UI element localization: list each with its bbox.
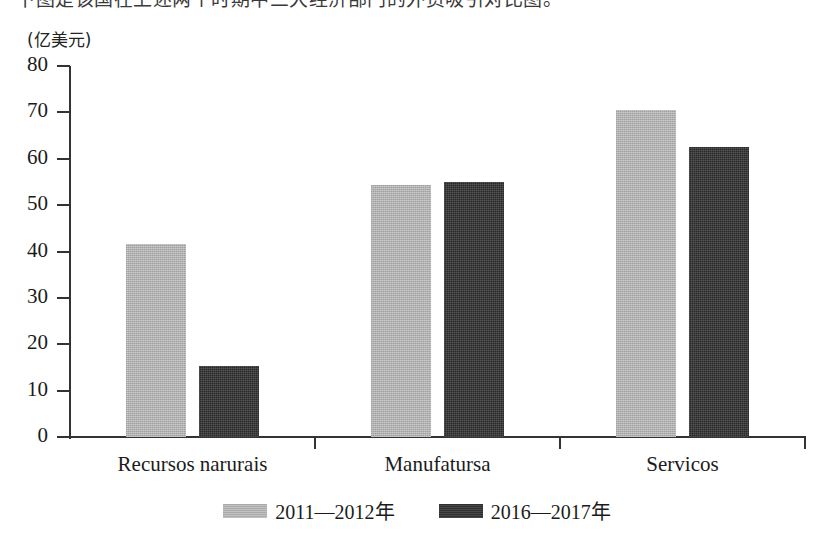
y-axis-tick-label: 70 <box>8 98 48 123</box>
legend-label-1: 2016—2017年 <box>491 496 611 525</box>
y-axis-unit-label: (亿美元) <box>27 26 91 51</box>
bar-series2-1 <box>444 182 504 437</box>
y-axis-tick <box>57 251 70 253</box>
y-axis-tick <box>57 436 70 438</box>
light-gray-swatch <box>223 504 267 518</box>
clipped-footer-strip <box>0 534 834 546</box>
y-axis-tick-label: 50 <box>8 191 48 216</box>
y-axis-tick <box>57 297 70 299</box>
x-axis-tick <box>559 437 561 449</box>
y-axis-tick <box>57 343 70 345</box>
bar-series1-2 <box>616 110 676 437</box>
x-axis-tick <box>804 437 806 449</box>
y-axis-tick-label: 30 <box>8 284 48 309</box>
bar-series2-0 <box>199 366 259 437</box>
y-axis-tick-label: 60 <box>8 145 48 170</box>
dark-gray-swatch <box>439 504 483 518</box>
y-axis-tick-label: 10 <box>8 377 48 402</box>
legend-item-0: 2011—2012年 <box>223 496 394 525</box>
bar-series1-1 <box>371 185 431 437</box>
category-label-2: Servicos <box>543 452 823 477</box>
bar-series1-0 <box>126 244 186 437</box>
category-label-1: Manufatursa <box>298 452 578 477</box>
legend-label-0: 2011—2012年 <box>275 496 394 525</box>
y-axis-tick <box>57 111 70 113</box>
y-axis-tick-label: 0 <box>8 423 48 448</box>
category-label-0: Recursos narurais <box>53 452 333 477</box>
y-axis-tick <box>57 390 70 392</box>
bar-chart-figure: (亿美元) 01020304050607080 Recursos narurai… <box>0 0 834 546</box>
y-axis-tick <box>57 204 70 206</box>
y-axis-tick <box>57 65 70 67</box>
bar-series2-2 <box>689 147 749 437</box>
x-axis-tick <box>314 437 316 449</box>
y-axis-tick-label: 80 <box>8 52 48 77</box>
plot-area <box>70 66 805 437</box>
y-axis-tick-label: 40 <box>8 238 48 263</box>
chart-legend: 2011—2012年2016—2017年 <box>0 496 834 525</box>
legend-item-1: 2016—2017年 <box>439 496 611 525</box>
y-axis-tick <box>57 158 70 160</box>
y-axis-tick-label: 20 <box>8 330 48 355</box>
